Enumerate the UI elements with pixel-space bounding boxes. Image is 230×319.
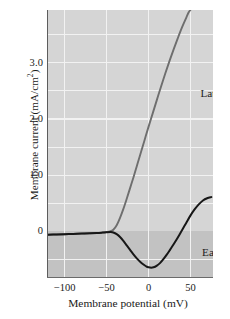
x-axis-tick-label: −100 [42,282,88,294]
y-axis-title-text: Membrane current (mA/cm [28,77,40,200]
series-annotation-early: Early [202,246,213,258]
y-axis-title: Membrane current (mA/cm2) [26,20,40,250]
curve-layer [48,10,213,278]
x-axis-title: Membrane potential (mV) [30,297,226,309]
y-axis-title-exponent: 2 [26,73,35,77]
plot-area: Late Early [48,10,213,278]
y-axis-title-tail: ) [28,70,40,74]
x-axis-tick-label: 50 [167,282,213,294]
series-annotation-late: Late [200,87,213,99]
series-line-early [48,197,211,268]
membrane-current-figure: Late Early 01.02.03.0 −100−50050 Membran… [0,0,230,319]
y-axis-rule [47,10,48,278]
x-axis-tick-label: −50 [84,282,130,294]
series-line-late [48,10,190,235]
x-axis-tick-label: 0 [126,282,172,294]
x-axis-rule [47,277,213,278]
